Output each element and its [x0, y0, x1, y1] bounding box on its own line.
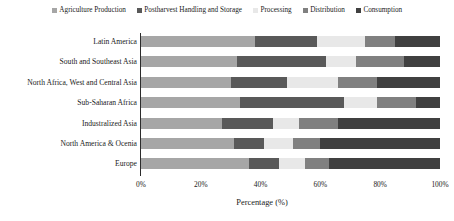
legend-item[interactable]: Distribution — [303, 7, 345, 14]
bar-segment[interactable] — [141, 36, 255, 47]
legend-item[interactable]: Processing — [253, 7, 292, 14]
bar-segment[interactable] — [249, 158, 279, 169]
bar-segment[interactable] — [329, 158, 440, 169]
legend-swatch-icon — [253, 8, 258, 13]
bar-segment[interactable] — [237, 56, 327, 67]
bar-row — [141, 118, 440, 129]
bar-segment[interactable] — [255, 36, 318, 47]
legend-swatch-icon — [137, 8, 142, 13]
bar-segment[interactable] — [404, 56, 440, 67]
legend-swatch-icon — [52, 8, 57, 13]
bar-segment[interactable] — [344, 97, 377, 108]
bar-segment[interactable] — [338, 118, 440, 129]
bar-segment[interactable] — [234, 138, 264, 149]
bar-segment[interactable] — [416, 97, 440, 108]
x-axis-title-text: Percentage (%) — [166, 198, 287, 207]
bar-segment[interactable] — [222, 118, 273, 129]
bar-segment[interactable] — [141, 138, 234, 149]
legend-label: Postharvest Handling and Storage — [144, 7, 242, 14]
bar-segment[interactable] — [395, 36, 440, 47]
y-axis-label: North Africa, West and Central Asia — [0, 77, 137, 88]
bar-segment[interactable] — [141, 56, 237, 67]
y-axis-label: Europe — [0, 158, 137, 169]
y-axis-label: Sub-Saharan Africa — [0, 97, 137, 108]
legend-item[interactable]: Consumption — [356, 7, 402, 14]
x-axis-tick: 100% — [431, 180, 448, 189]
bar-segment[interactable] — [141, 118, 222, 129]
x-axis-tick: 40% — [254, 180, 268, 189]
x-axis-title: Percentage (%) — [0, 198, 454, 207]
bar-segment[interactable] — [273, 118, 300, 129]
bar-segment[interactable] — [317, 36, 365, 47]
x-axis-tick-labels: 0%20%40%60%80%100% — [141, 180, 440, 192]
bar-segment[interactable] — [305, 158, 329, 169]
x-axis-tick: 80% — [373, 180, 387, 189]
bar-row — [141, 56, 440, 67]
y-axis-label: Industralized Asia — [0, 118, 137, 129]
bar-segment[interactable] — [240, 97, 345, 108]
plot-area — [141, 33, 440, 176]
bar-segment[interactable] — [141, 158, 249, 169]
bar-segment[interactable] — [377, 97, 416, 108]
bar-segment[interactable] — [141, 97, 240, 108]
y-axis-label: North America & Ocenia — [0, 138, 137, 149]
x-axis-tick: 60% — [314, 180, 328, 189]
bar-segment[interactable] — [279, 158, 306, 169]
bar-row — [141, 36, 440, 47]
x-axis-tick: 0% — [136, 180, 146, 189]
bar-segment[interactable] — [377, 77, 440, 88]
bar-segment[interactable] — [293, 138, 320, 149]
y-axis-category-labels: Latin AmericaSouth and Southeast AsiaNor… — [0, 33, 137, 176]
bar-segment[interactable] — [320, 138, 440, 149]
bar-segment[interactable] — [231, 77, 288, 88]
bar-segment[interactable] — [141, 77, 231, 88]
legend-swatch-icon — [356, 8, 361, 13]
y-axis-label: Latin America — [0, 36, 137, 47]
bar-row — [141, 97, 440, 108]
legend-item[interactable]: Postharvest Handling and Storage — [137, 7, 242, 14]
legend-label: Processing — [260, 7, 291, 14]
bar-segment[interactable] — [326, 56, 356, 67]
bar-segment[interactable] — [264, 138, 294, 149]
x-axis-tick: 20% — [194, 180, 208, 189]
legend-label: Consumption — [363, 7, 402, 14]
legend-label: Distribution — [310, 7, 345, 14]
bar-row — [141, 138, 440, 149]
chart-legend: Agriculture ProductionPostharvest Handli… — [0, 7, 454, 14]
legend-swatch-icon — [303, 8, 308, 13]
bar-segment[interactable] — [287, 77, 338, 88]
stacked-bar-chart: Agriculture ProductionPostharvest Handli… — [0, 0, 454, 221]
bar-row — [141, 77, 440, 88]
bar-segment[interactable] — [365, 36, 395, 47]
bar-segment[interactable] — [338, 77, 377, 88]
bar-segment[interactable] — [356, 56, 404, 67]
y-axis-label: South and Southeast Asia — [0, 56, 137, 67]
legend-item[interactable]: Agriculture Production — [52, 7, 126, 14]
legend-label: Agriculture Production — [59, 7, 125, 14]
bar-row — [141, 158, 440, 169]
bar-segment[interactable] — [299, 118, 338, 129]
